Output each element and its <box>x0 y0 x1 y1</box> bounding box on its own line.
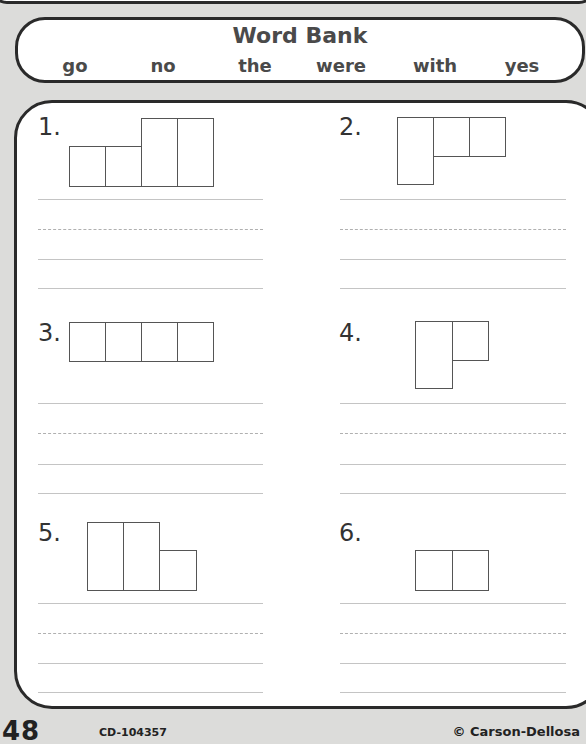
word-bank-word: no <box>150 55 175 76</box>
letter-box-tall[interactable] <box>177 118 214 187</box>
exercise-number: 3. <box>38 319 61 347</box>
page-number: 48 <box>2 716 40 744</box>
letter-box-tall[interactable] <box>141 118 178 187</box>
exercise-number: 5. <box>38 519 61 547</box>
word-bank-word: yes <box>505 55 540 76</box>
letter-box-short[interactable] <box>433 117 470 157</box>
copyright: © Carson-Dellosa <box>452 724 580 739</box>
letter-box-short[interactable] <box>469 117 506 157</box>
exercise-number: 6. <box>339 519 362 547</box>
letter-box-short[interactable] <box>69 146 106 187</box>
letter-box-short[interactable] <box>452 550 489 591</box>
letter-box-short[interactable] <box>177 322 214 362</box>
letter-box-short[interactable] <box>159 550 197 591</box>
letter-box-tall[interactable] <box>397 117 434 185</box>
writing-line-bottom[interactable] <box>340 288 566 289</box>
writing-line-base[interactable] <box>38 663 263 664</box>
exercise-number: 4. <box>339 319 362 347</box>
letter-box-short[interactable] <box>105 146 142 187</box>
letter-box-short[interactable] <box>452 321 489 361</box>
word-bank-word: with <box>413 55 457 76</box>
word-bank-word: go <box>62 55 87 76</box>
writing-line-bottom[interactable] <box>38 288 263 289</box>
product-code: CD-104357 <box>99 726 167 739</box>
letter-box-tall[interactable] <box>415 321 453 389</box>
writing-line-bottom[interactable] <box>340 692 566 693</box>
writing-line-mid[interactable] <box>38 633 263 634</box>
writing-line-bottom[interactable] <box>38 692 263 693</box>
writing-line-top[interactable] <box>340 199 566 200</box>
word-bank-word: the <box>238 55 272 76</box>
letter-box-short[interactable] <box>105 322 142 362</box>
writing-line-base[interactable] <box>340 663 566 664</box>
exercise-panel <box>14 100 586 709</box>
writing-line-base[interactable] <box>340 464 566 465</box>
writing-line-bottom[interactable] <box>38 493 263 494</box>
letter-box-short[interactable] <box>415 550 453 591</box>
letter-box-short[interactable] <box>69 322 106 362</box>
letter-box-tall[interactable] <box>123 522 160 591</box>
writing-line-mid[interactable] <box>38 229 263 230</box>
writing-line-top[interactable] <box>340 403 566 404</box>
word-bank-word: were <box>316 55 366 76</box>
writing-line-base[interactable] <box>38 464 263 465</box>
exercise-number: 2. <box>339 113 362 141</box>
word-bank: Word Bank go no the were with yes <box>15 17 585 83</box>
writing-line-top[interactable] <box>340 603 566 604</box>
writing-line-mid[interactable] <box>340 229 566 230</box>
writing-line-mid[interactable] <box>340 433 566 434</box>
writing-line-top[interactable] <box>38 199 263 200</box>
writing-line-bottom[interactable] <box>340 493 566 494</box>
writing-line-mid[interactable] <box>38 433 263 434</box>
exercise-number: 1. <box>38 113 61 141</box>
writing-line-base[interactable] <box>38 259 263 260</box>
letter-box-short[interactable] <box>141 322 178 362</box>
letter-box-tall[interactable] <box>87 522 124 591</box>
writing-line-top[interactable] <box>38 403 263 404</box>
writing-line-base[interactable] <box>340 259 566 260</box>
writing-line-top[interactable] <box>38 603 263 604</box>
word-bank-title: Word Bank <box>18 23 582 48</box>
previous-section-frame <box>0 0 586 4</box>
writing-line-mid[interactable] <box>340 633 566 634</box>
